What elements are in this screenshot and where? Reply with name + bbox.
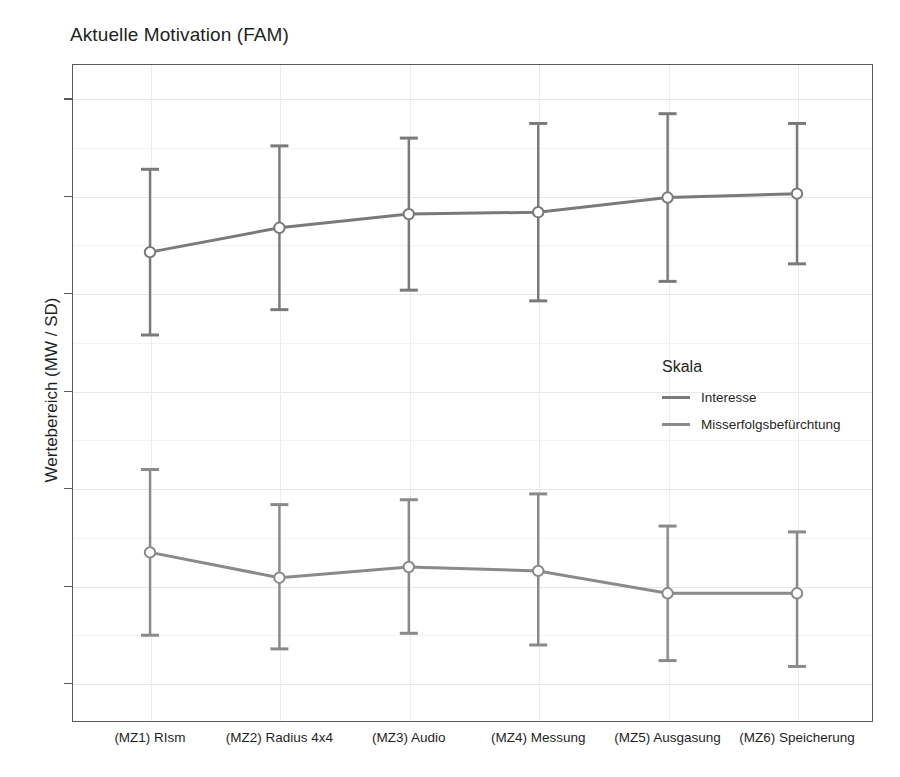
y-tick-mark-1 xyxy=(64,683,72,684)
gridline-y-1 xyxy=(73,684,872,685)
gridline-y-5 xyxy=(73,294,872,295)
chart-figure: Aktuelle Motivation (FAM) Wertebereich (… xyxy=(0,0,900,777)
x-tick-label-6: (MZ6) Speicherung xyxy=(739,730,855,745)
legend-item-misserfolgsbefuerchtung[interactable]: Misserfolgsbefürchtung xyxy=(662,417,841,432)
legend: Skala Interesse Misserfolgsbefürchtung xyxy=(662,358,841,444)
gridline-y-minor-1 xyxy=(73,635,872,636)
gridline-x-1 xyxy=(151,65,152,721)
chart-title: Aktuelle Motivation (FAM) xyxy=(70,24,289,46)
y-tick-mark-2 xyxy=(64,586,72,587)
legend-key-interesse xyxy=(662,396,690,399)
gridline-y-minor-6 xyxy=(73,148,872,149)
y-tick-mark-5 xyxy=(64,293,72,294)
gridline-y-7 xyxy=(73,99,872,100)
x-tick-label-5: (MZ5) Ausgasung xyxy=(614,730,721,745)
gridline-y-2 xyxy=(73,587,872,588)
gridline-y-minor-2 xyxy=(73,538,872,539)
legend-label-misserfolgsbefuerchtung: Misserfolgsbefürchtung xyxy=(701,417,841,432)
y-tick-mark-3 xyxy=(64,488,72,489)
x-tick-label-3: (MZ3) Audio xyxy=(372,730,446,745)
y-tick-mark-7 xyxy=(64,98,72,99)
legend-item-interesse[interactable]: Interesse xyxy=(662,390,841,405)
gridline-x-4 xyxy=(539,65,540,721)
gridline-x-2 xyxy=(280,65,281,721)
gridline-y-3 xyxy=(73,489,872,490)
y-tick-mark-6 xyxy=(64,196,72,197)
legend-title: Skala xyxy=(662,358,841,376)
gridline-y-6 xyxy=(73,197,872,198)
gridline-x-3 xyxy=(410,65,411,721)
y-tick-mark-4 xyxy=(64,391,72,392)
gridline-y-minor-5 xyxy=(73,245,872,246)
gridline-y-minor-4 xyxy=(73,343,872,344)
legend-label-interesse: Interesse xyxy=(701,390,757,405)
x-tick-label-1: (MZ1) RIsm xyxy=(114,730,185,745)
legend-key-misserfolgsbefuerchtung xyxy=(662,423,690,426)
y-axis-title: Wertebereich (MW / SD) xyxy=(42,190,62,590)
x-tick-label-2: (MZ2) Radius 4x4 xyxy=(226,730,333,745)
x-tick-label-4: (MZ4) Messung xyxy=(491,730,586,745)
